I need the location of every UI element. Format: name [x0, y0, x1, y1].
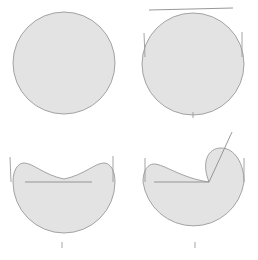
cusped-lune-region: [143, 148, 244, 226]
panel-disk-with-tangent-chord: [129, 0, 258, 130]
panel-undeformed-disk: [0, 0, 129, 130]
top-tangent-chord-line: [149, 8, 233, 10]
disk-region: [13, 12, 115, 114]
disk-region: [142, 13, 244, 115]
concave-lune-region: [13, 163, 115, 233]
figure-grid: [0, 0, 258, 260]
left-side-tick-mark: [10, 157, 11, 182]
panel-cusped-region-with-ray: [129, 130, 258, 260]
panel-concave-top-region: [0, 130, 129, 260]
